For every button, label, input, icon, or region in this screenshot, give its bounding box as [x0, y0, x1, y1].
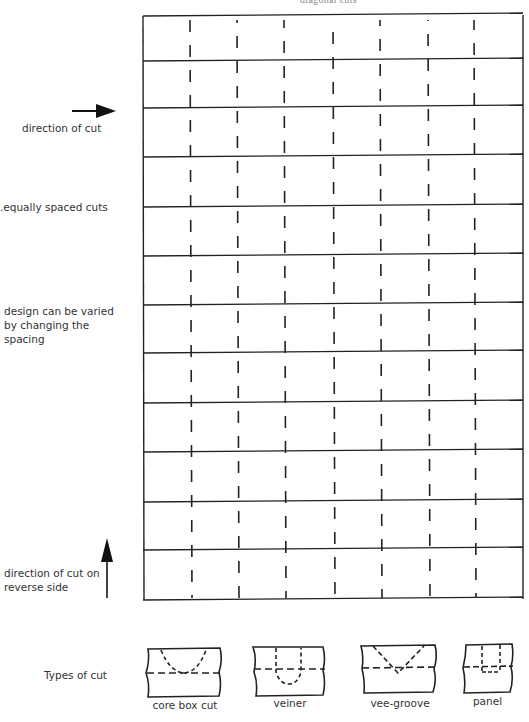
- veiner-icon: [253, 647, 325, 696]
- caption-panel: panel: [460, 695, 515, 707]
- caption-veiner: veiner: [250, 697, 330, 709]
- core-box-cut-icon: [146, 648, 221, 697]
- vee-groove-icon: [361, 645, 436, 693]
- caption-vee-groove: vee-groove: [355, 697, 445, 709]
- caption-core-box-cut: core box cut: [140, 699, 230, 711]
- panel-icon: [463, 644, 513, 693]
- cut-type-icons: [0, 0, 529, 722]
